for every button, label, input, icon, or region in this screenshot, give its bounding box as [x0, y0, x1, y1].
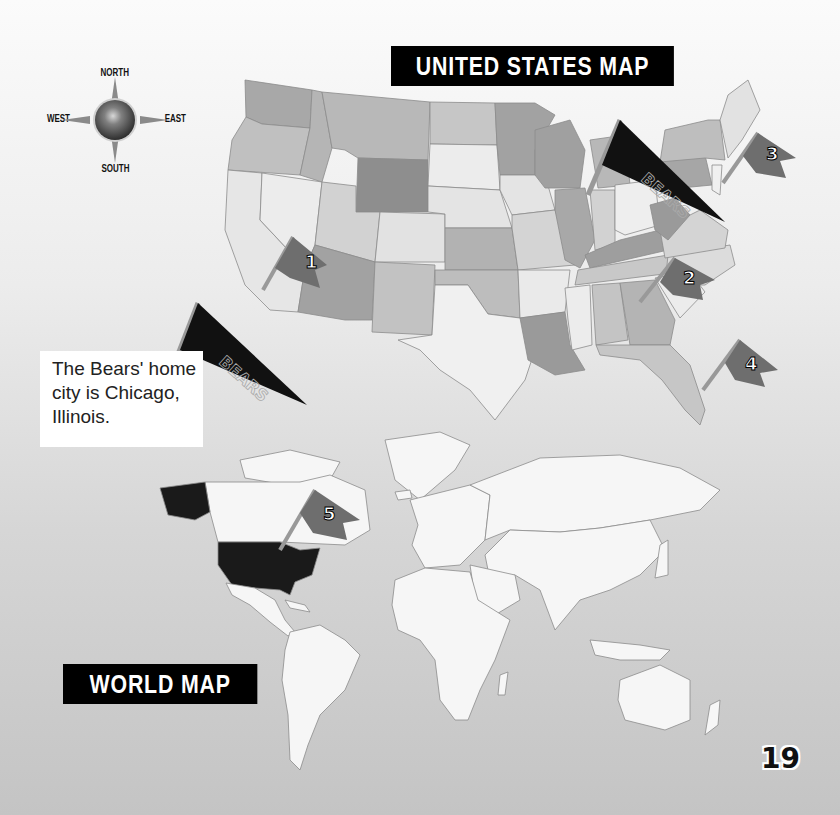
state-new-mexico [372, 262, 435, 335]
flag-5[interactable]: 5 [275, 485, 365, 555]
new-zealand [705, 700, 720, 735]
iceland [395, 490, 412, 500]
state-kansas [445, 228, 518, 270]
state-arkansas [518, 270, 570, 318]
russia [470, 455, 720, 540]
compass-icon [60, 75, 170, 165]
flag-2[interactable]: 2 [635, 250, 725, 310]
svg-text:1: 1 [305, 251, 318, 272]
alaska [160, 482, 210, 520]
madagascar [498, 672, 508, 695]
state-north-dakota [430, 102, 497, 145]
europe [410, 485, 490, 568]
caribbean [285, 600, 310, 612]
state-florida [596, 345, 705, 425]
svg-text:2: 2 [683, 267, 696, 288]
world-map [150, 430, 750, 780]
flag-1[interactable]: 1 [255, 230, 335, 300]
svg-text:4: 4 [745, 353, 758, 374]
flag-4[interactable]: 4 [700, 335, 780, 395]
page-number: 19 [761, 742, 800, 775]
svg-text:3: 3 [766, 143, 779, 164]
flag-3[interactable]: 3 [718, 128, 800, 188]
state-wisconsin [535, 120, 585, 188]
state-colorado [375, 212, 445, 262]
bears-pennant-chicago: BEARS [580, 110, 730, 230]
svg-text:5: 5 [323, 503, 336, 524]
south-america [282, 625, 360, 770]
state-south-dakota [428, 144, 500, 190]
state-montana [322, 92, 430, 160]
world-map-title: World Map [63, 664, 257, 704]
indonesia [590, 640, 670, 660]
australia [618, 665, 690, 730]
compass-rose: NORTH SOUTH WEST EAST [40, 0, 200, 190]
state-wyoming [356, 158, 428, 212]
